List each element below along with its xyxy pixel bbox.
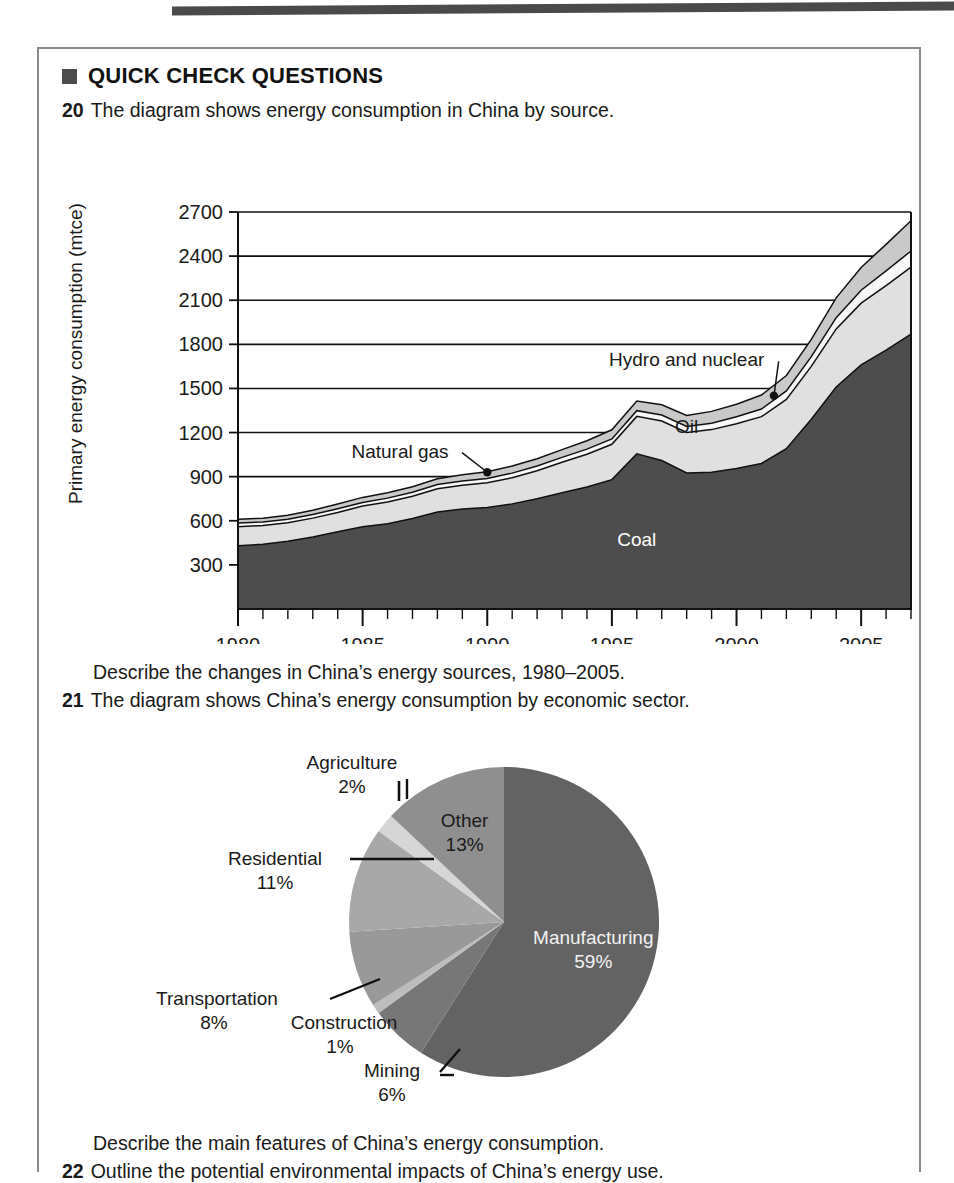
svg-text:300: 300	[190, 554, 223, 576]
svg-text:1500: 1500	[179, 377, 224, 399]
svg-text:59%: 59%	[574, 951, 612, 972]
svg-text:1995: 1995	[590, 634, 635, 644]
area-chart-series-areas	[238, 221, 911, 609]
area-chart-y-axis-title: Primary energy consumption (mtce)	[65, 203, 86, 504]
quick-check-heading: QUICK CHECK QUESTIONS	[62, 63, 383, 89]
question-22: 22Outline the potential environmental im…	[62, 1160, 664, 1183]
svg-text:Transportation: Transportation	[156, 988, 278, 1009]
svg-text:Construction: Construction	[291, 1012, 398, 1033]
svg-text:6%: 6%	[378, 1084, 406, 1105]
svg-text:Residential: Residential	[228, 848, 322, 869]
svg-text:1800: 1800	[179, 333, 224, 355]
svg-text:Mining: Mining	[364, 1060, 420, 1081]
svg-text:1200: 1200	[179, 422, 224, 444]
quick-check-questions-box: QUICK CHECK QUESTIONS 20The diagram show…	[37, 47, 921, 1172]
svg-text:1%: 1%	[326, 1036, 354, 1057]
svg-text:Hydro and nuclear: Hydro and nuclear	[609, 349, 765, 370]
filled-square-icon	[62, 69, 77, 84]
svg-text:2005: 2005	[839, 634, 884, 644]
svg-text:Coal: Coal	[617, 529, 656, 550]
question-21-followup-text: Describe the main features of China’s en…	[93, 1132, 604, 1154]
question-21-text: The diagram shows China’s energy consump…	[91, 689, 690, 711]
svg-text:Oil: Oil	[675, 416, 698, 437]
svg-text:13%: 13%	[446, 834, 484, 855]
svg-text:8%: 8%	[200, 1012, 228, 1033]
svg-text:Other: Other	[441, 810, 489, 831]
svg-text:2%: 2%	[338, 776, 366, 797]
running-head-rule	[172, 2, 954, 16]
svg-text:11%: 11%	[257, 872, 294, 893]
svg-text:900: 900	[190, 466, 223, 488]
question-21-followup: Describe the main features of China’s en…	[62, 1132, 604, 1155]
svg-text:2400: 2400	[179, 245, 224, 267]
svg-text:Manufacturing: Manufacturing	[533, 927, 653, 948]
area-chart-energy-by-source: Primary energy consumption (mtce) 300600…	[62, 134, 912, 644]
question-22-number: 22	[62, 1160, 84, 1182]
svg-text:2700: 2700	[179, 201, 224, 223]
pie-chart-energy-by-sector: Manufacturing59%Other13%Agriculture2%Res…	[62, 717, 912, 1127]
svg-text:Agriculture: Agriculture	[307, 752, 398, 773]
question-21: 21The diagram shows China’s energy consu…	[62, 689, 690, 712]
question-20-number: 20	[62, 99, 84, 121]
question-20-followup-text: Describe the changes in China’s energy s…	[93, 661, 625, 683]
question-20-text: The diagram shows energy consumption in …	[91, 99, 615, 121]
svg-text:2100: 2100	[179, 289, 224, 311]
question-20-followup: Describe the changes in China’s energy s…	[62, 661, 625, 684]
area-chart-x-ticks	[238, 609, 911, 626]
svg-text:1980: 1980	[216, 634, 261, 644]
question-22-text: Outline the potential environmental impa…	[91, 1160, 664, 1182]
svg-text:2000: 2000	[714, 634, 759, 644]
area-chart-y-tick-labels: 300600900120015001800210024002700	[179, 201, 224, 576]
svg-text:1990: 1990	[465, 634, 510, 644]
svg-text:Natural gas: Natural gas	[351, 441, 448, 462]
question-21-number: 21	[62, 689, 84, 711]
question-20: 20The diagram shows energy consumption i…	[62, 99, 614, 122]
svg-text:600: 600	[190, 510, 223, 532]
quick-check-heading-label: QUICK CHECK QUESTIONS	[88, 63, 383, 89]
svg-text:1985: 1985	[340, 634, 385, 644]
area-chart-x-tick-labels: 198019851990199520002005	[216, 634, 884, 644]
